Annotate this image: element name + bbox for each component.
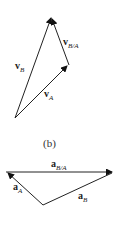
caption-b: (b) bbox=[43, 137, 56, 149]
label-aA: aA bbox=[13, 181, 22, 195]
label-vB: vB bbox=[15, 60, 24, 74]
vector-diagrams bbox=[0, 0, 122, 237]
label-vBA: vB/A bbox=[63, 36, 79, 50]
label-vA: vA bbox=[44, 88, 53, 102]
label-aBA: aB/A bbox=[51, 158, 67, 172]
label-aB: aB bbox=[78, 190, 87, 204]
